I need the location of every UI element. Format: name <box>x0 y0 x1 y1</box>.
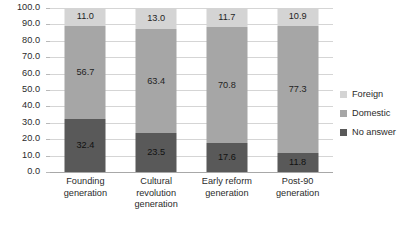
bar-segment-value: 11.7 <box>218 13 235 22</box>
x-axis-category-line: Founding <box>50 176 121 188</box>
x-axis-category-line: revolution <box>121 188 192 200</box>
bar-segment-value: 17.6 <box>218 153 236 162</box>
bar-segment-value: 70.8 <box>218 81 236 90</box>
y-axis-tick-label: 20.0 <box>0 135 40 144</box>
x-axis-category-line: Cultural <box>121 176 192 188</box>
x-axis-line <box>50 172 333 173</box>
x-axis-category-line: generation <box>192 188 263 200</box>
y-axis-tick-label: 30.0 <box>0 118 40 127</box>
y-axis-tick-label: 0.0 <box>0 167 40 176</box>
legend-swatch-icon <box>340 91 347 98</box>
bar-segment-domestic[interactable]: 63.4 <box>136 29 177 133</box>
x-axis-category-line: generation <box>262 188 333 200</box>
x-axis-category-line: Early reform <box>192 176 263 188</box>
bar-segment-value: 56.7 <box>76 68 94 77</box>
x-axis-category-label: Founding generation <box>50 176 121 199</box>
x-axis-category-label: Post-90 generation <box>262 176 333 199</box>
y-axis-tick-label: 70.0 <box>0 53 40 62</box>
bar-group: 11.7 70.8 17.6 <box>192 8 263 172</box>
y-axis-tick-label: 100.0 <box>0 3 40 12</box>
bar-segment-foreign[interactable]: 11.0 <box>65 8 106 26</box>
bar-segment-foreign[interactable]: 11.7 <box>206 8 247 27</box>
bar-segment-value: 23.5 <box>147 148 165 157</box>
x-axis-category-label: Early reform generation <box>192 176 263 199</box>
x-axis-labels: Founding generation Cultural revolution … <box>50 176 333 222</box>
bar-segment-value: 10.9 <box>289 12 307 21</box>
x-axis-category-line: generation <box>121 199 192 211</box>
bar-segment-no-answer[interactable]: 23.5 <box>136 133 177 172</box>
legend-label: Foreign <box>352 90 383 99</box>
y-axis-tick-label: 10.0 <box>0 151 40 160</box>
y-axis: 100.0 90.0 80.0 70.0 60.0 50.0 40.0 30.0… <box>0 0 46 178</box>
x-axis-category-label: Cultural revolution generation <box>121 176 192 211</box>
bar-segment-foreign[interactable]: 13.0 <box>136 8 177 29</box>
legend-swatch-icon <box>340 129 347 136</box>
legend-swatch-icon <box>340 110 347 117</box>
bar-group: 11.0 56.7 32.4 <box>50 8 121 172</box>
stacked-bar[interactable]: 11.0 56.7 32.4 <box>65 8 106 172</box>
bar-group: 10.9 77.3 11.8 <box>262 8 333 172</box>
bar-segment-no-answer[interactable]: 11.8 <box>277 153 318 172</box>
legend-item-no-answer[interactable]: No answer <box>340 123 408 142</box>
bars-layer: 11.0 56.7 32.4 13.0 63.4 <box>50 8 333 172</box>
legend-label: Domestic <box>352 109 390 118</box>
bar-segment-domestic[interactable]: 70.8 <box>206 27 247 143</box>
bar-segment-value: 77.3 <box>289 85 307 94</box>
y-axis-tick-label: 80.0 <box>0 36 40 45</box>
bar-segment-domestic[interactable]: 56.7 <box>65 26 106 119</box>
bar-segment-domestic[interactable]: 77.3 <box>277 26 318 153</box>
y-axis-tick-label: 40.0 <box>0 102 40 111</box>
stacked-bar-chart: 100.0 90.0 80.0 70.0 60.0 50.0 40.0 30.0… <box>0 0 408 230</box>
stacked-bar[interactable]: 13.0 63.4 23.5 <box>136 8 177 172</box>
bar-segment-foreign[interactable]: 10.9 <box>277 8 318 26</box>
x-axis-category-line: generation <box>50 188 121 200</box>
bar-segment-value: 11.0 <box>77 12 94 21</box>
chart-legend: Foreign Domestic No answer <box>340 85 408 142</box>
y-axis-tick-label: 60.0 <box>0 69 40 78</box>
bar-segment-no-answer[interactable]: 17.6 <box>206 143 247 172</box>
y-axis-tick-label: 90.0 <box>0 20 40 29</box>
bar-segment-value: 11.8 <box>289 158 306 167</box>
legend-item-foreign[interactable]: Foreign <box>340 85 408 104</box>
bar-segment-no-answer[interactable]: 32.4 <box>65 119 106 172</box>
stacked-bar[interactable]: 11.7 70.8 17.6 <box>206 8 247 172</box>
bar-segment-value: 32.4 <box>76 141 94 150</box>
plot-area: 11.0 56.7 32.4 13.0 63.4 <box>50 8 333 172</box>
bar-segment-value: 13.0 <box>147 14 165 23</box>
stacked-bar[interactable]: 10.9 77.3 11.8 <box>277 8 318 172</box>
legend-item-domestic[interactable]: Domestic <box>340 104 408 123</box>
bar-group: 13.0 63.4 23.5 <box>121 8 192 172</box>
legend-label: No answer <box>352 128 396 137</box>
bar-segment-value: 63.4 <box>147 77 165 86</box>
x-axis-category-line: Post-90 <box>262 176 333 188</box>
y-axis-tick-label: 50.0 <box>0 85 40 94</box>
